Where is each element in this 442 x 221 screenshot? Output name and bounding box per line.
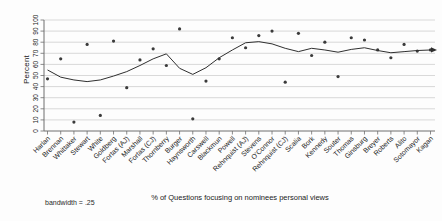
data-point: [244, 46, 247, 49]
y-tick-label: 50: [32, 72, 39, 80]
data-point: [284, 81, 287, 84]
data-point: [59, 57, 62, 60]
data-point: [402, 43, 405, 46]
data-point: [350, 36, 353, 39]
y-tick-label: 100: [32, 14, 39, 25]
data-point: [125, 86, 128, 89]
chart-canvas: 0102030405060708090100HarlanBrennanWhitt…: [0, 0, 442, 221]
y-tick-label: 70: [32, 49, 39, 57]
chart: 0102030405060708090100HarlanBrennanWhitt…: [0, 0, 442, 221]
data-point: [112, 39, 115, 42]
line-arrowhead: [431, 47, 437, 52]
y-tick-label: 90: [32, 27, 39, 35]
data-point: [99, 114, 102, 117]
data-point: [310, 54, 313, 57]
data-point: [257, 34, 260, 37]
data-point: [297, 32, 300, 35]
data-point: [389, 56, 392, 59]
y-tick-label: 20: [32, 105, 39, 113]
data-point: [86, 43, 89, 46]
data-point: [231, 36, 234, 39]
data-point: [138, 58, 141, 61]
y-tick-label: 10: [32, 116, 39, 124]
y-tick-label: 80: [32, 38, 39, 46]
y-tick-label: 40: [32, 83, 39, 91]
x-axis-caption: % of Questions focusing on nominees pers…: [45, 193, 435, 202]
data-point: [152, 47, 155, 50]
data-point: [191, 117, 194, 120]
data-point: [46, 77, 49, 80]
data-point: [270, 30, 273, 33]
y-tick-label: 0: [32, 129, 39, 133]
data-point: [178, 27, 181, 30]
data-point: [72, 121, 75, 124]
y-tick-label: 60: [32, 60, 39, 68]
data-point: [165, 64, 168, 67]
y-tick-label: 30: [32, 94, 39, 102]
data-point: [323, 41, 326, 44]
data-point: [336, 75, 339, 78]
y-axis-title: Percent: [22, 38, 31, 102]
data-point: [363, 38, 366, 41]
data-point: [204, 79, 207, 82]
